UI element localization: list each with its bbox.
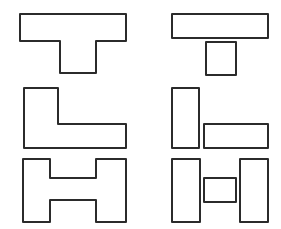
l-shape-compound xyxy=(24,88,126,148)
l-shape-decomposed xyxy=(172,88,268,148)
figure-layer xyxy=(20,14,268,222)
h-shape-compound xyxy=(23,159,126,222)
h-left-leg-rect xyxy=(172,159,200,222)
h-shape-compound-outline xyxy=(23,159,126,222)
sketch-page xyxy=(0,0,281,229)
h-shape-decomposed xyxy=(172,159,268,222)
l-horizontal-rect xyxy=(204,124,268,148)
t-shape-decomposed xyxy=(172,14,268,75)
t-top-bar-rect xyxy=(172,14,268,38)
t-stem-rect xyxy=(206,42,236,75)
t-shape-compound-outline xyxy=(20,14,126,73)
l-shape-compound-outline xyxy=(24,88,126,148)
l-vertical-rect xyxy=(172,88,199,148)
sketch-canvas xyxy=(0,0,281,229)
h-crossbar-rect xyxy=(204,178,236,202)
t-shape-compound xyxy=(20,14,126,73)
h-right-leg-rect xyxy=(240,159,268,222)
